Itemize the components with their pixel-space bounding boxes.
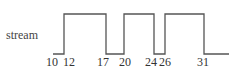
tick-label-26: 26 <box>159 55 171 70</box>
tick-label-20: 20 <box>119 55 131 70</box>
tick-label-10: 10 <box>46 55 58 70</box>
tick-label-24: 24 <box>145 55 157 70</box>
tick-label-17: 17 <box>97 55 109 70</box>
stream-waveform-line <box>53 14 229 54</box>
tick-label-12: 12 <box>63 55 75 70</box>
tick-label-31: 31 <box>197 55 209 70</box>
